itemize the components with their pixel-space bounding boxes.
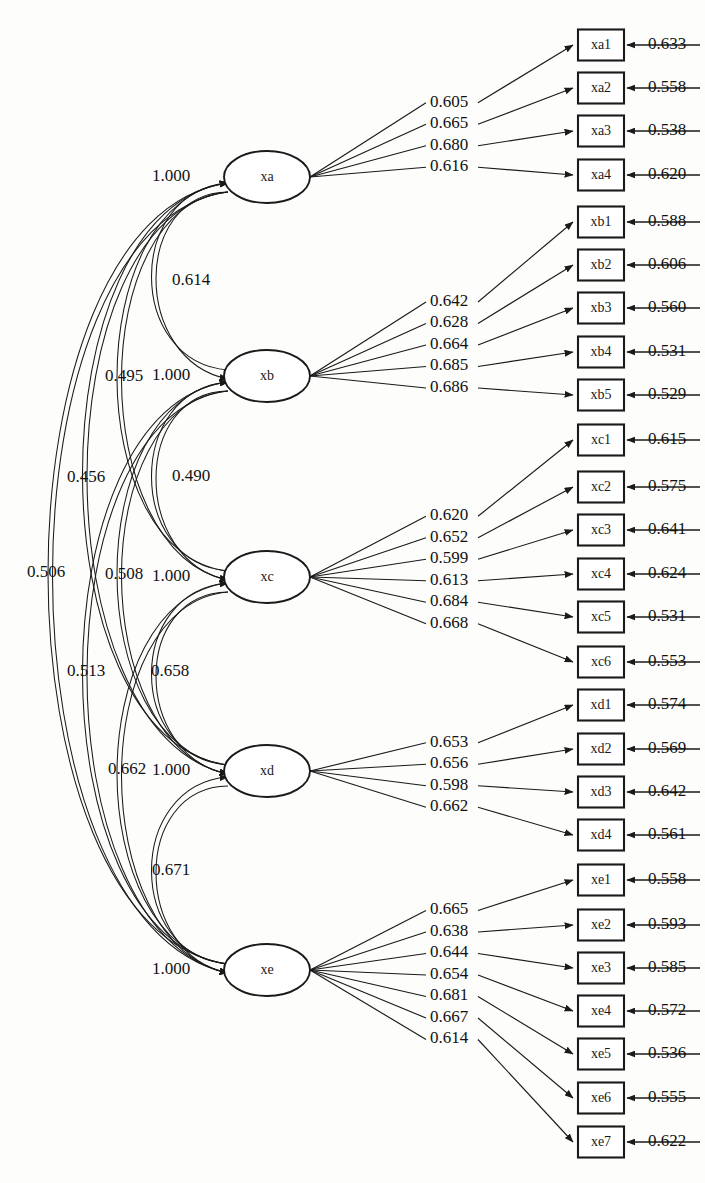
- residual-label: 0.531: [648, 341, 686, 360]
- factor-label: xc: [260, 569, 273, 584]
- indicator-label: xb5: [591, 387, 612, 402]
- indicator-label: xa1: [591, 37, 611, 52]
- loading-indicator-arrow: [478, 45, 573, 103]
- loading-indicator-arrow: [478, 602, 573, 617]
- residual-label: 0.620: [648, 164, 686, 183]
- residual-label: 0.574: [648, 694, 687, 713]
- loading-indicator-arrow: [478, 749, 573, 764]
- loading-label: 0.681: [430, 985, 468, 1004]
- residual-label: 0.555: [648, 1087, 686, 1106]
- loading-label: 0.665: [430, 113, 468, 132]
- residual-label: 0.531: [648, 606, 686, 625]
- factor-loading-segment: [310, 538, 426, 577]
- residual-label: 0.536: [648, 1043, 686, 1062]
- factor-loading-segment: [310, 970, 426, 1018]
- indicator-label: xd2: [591, 741, 612, 756]
- factor-loading-segment: [310, 103, 426, 177]
- loading-indicator-arrow: [478, 440, 573, 516]
- indicator-label: xc2: [591, 479, 611, 494]
- indicator-label: xa3: [591, 123, 611, 138]
- residual-label: 0.588: [648, 211, 686, 230]
- correlation-label: 0.614: [172, 270, 211, 289]
- correlation-label: 0.508: [105, 564, 143, 583]
- loading-label: 0.644: [430, 942, 469, 961]
- loading-indicator-arrow: [478, 388, 573, 395]
- residual-label: 0.560: [648, 297, 686, 316]
- factor-loading-segment: [310, 932, 426, 970]
- indicator-label: xe1: [591, 872, 611, 887]
- indicator-label: xb3: [591, 300, 612, 315]
- loading-indicator-arrow: [478, 705, 573, 743]
- loading-indicator-arrow: [478, 530, 573, 559]
- loading-indicator-arrow: [478, 167, 573, 175]
- residual-label: 0.558: [648, 77, 686, 96]
- residual-label: 0.622: [648, 1131, 686, 1150]
- indicator-label: xd4: [591, 827, 612, 842]
- loading-indicator-arrow: [478, 954, 573, 969]
- loading-indicator-arrow: [478, 352, 573, 367]
- residual-label: 0.529: [648, 384, 686, 403]
- loading-label: 0.620: [430, 505, 468, 524]
- loading-label: 0.686: [430, 377, 468, 396]
- factor-variance-label: 1.000: [152, 166, 190, 185]
- loading-indicator-arrow: [478, 624, 573, 662]
- factor-loading-segment: [310, 771, 426, 786]
- loading-label: 0.665: [430, 899, 468, 918]
- residual-label: 0.624: [648, 563, 687, 582]
- loading-label: 0.667: [430, 1007, 469, 1026]
- factor-loading-segment: [310, 577, 426, 602]
- loading-label: 0.685: [430, 355, 468, 374]
- factor-loading-segment: [310, 376, 426, 388]
- factor-label: xa: [260, 169, 274, 184]
- residual-label: 0.575: [648, 476, 686, 495]
- factor-loading-segment: [310, 954, 426, 971]
- residual-label: 0.642: [648, 781, 686, 800]
- factor-loading-segment: [310, 911, 426, 971]
- loading-label: 0.654: [430, 964, 469, 983]
- factor-label: xe: [260, 962, 273, 977]
- correlation-label: 0.513: [67, 661, 105, 680]
- indicator-label: xe5: [591, 1046, 611, 1061]
- loading-indicator-arrow: [478, 487, 573, 538]
- factor-loading-segment: [310, 771, 426, 807]
- residual-label: 0.615: [648, 429, 686, 448]
- indicator-label: xa2: [591, 80, 611, 95]
- correlation-label: 0.490: [172, 466, 210, 485]
- nodes-layer: [224, 30, 624, 1158]
- loading-label: 0.680: [430, 135, 468, 154]
- loading-indicator-arrow: [478, 1018, 573, 1098]
- loading-indicator-arrow: [478, 786, 573, 792]
- factor-variance-label: 1.000: [152, 760, 190, 779]
- loading-label: 0.605: [430, 92, 468, 111]
- indicator-label: xb2: [591, 257, 612, 272]
- residual-label: 0.572: [648, 1000, 686, 1019]
- indicator-label: xd1: [591, 697, 612, 712]
- residual-label: 0.641: [648, 519, 686, 538]
- indicator-label: xb4: [591, 344, 612, 359]
- residual-label: 0.606: [648, 254, 686, 273]
- loading-label: 0.662: [430, 796, 468, 815]
- indicator-label: xe4: [591, 1003, 611, 1018]
- correlation-label: 0.658: [151, 661, 189, 680]
- indicator-label: xc5: [591, 609, 611, 624]
- residual-label: 0.538: [648, 120, 686, 139]
- indicator-label: xc6: [591, 654, 611, 669]
- correlation-arc: [122, 592, 229, 973]
- factor-loading-segment: [310, 577, 426, 624]
- loading-label: 0.599: [430, 548, 468, 567]
- loading-label: 0.684: [430, 591, 469, 610]
- loading-label: 0.642: [430, 291, 468, 310]
- loading-indicator-arrow: [478, 308, 573, 345]
- indicator-label: xb1: [591, 214, 612, 229]
- indicator-label: xc4: [591, 566, 611, 581]
- correlation-label: 0.506: [27, 562, 65, 581]
- loading-indicator-arrow: [478, 880, 573, 911]
- loading-indicator-arrow: [478, 807, 573, 835]
- factor-variance-label: 1.000: [152, 566, 190, 585]
- residual-label: 0.585: [648, 957, 686, 976]
- factor-loading-segment: [310, 577, 426, 581]
- correlation-label: 0.495: [105, 366, 143, 385]
- loading-label: 0.664: [430, 334, 469, 353]
- factor-variance-label: 1.000: [152, 959, 190, 978]
- factor-variance-label: 1.000: [152, 365, 190, 384]
